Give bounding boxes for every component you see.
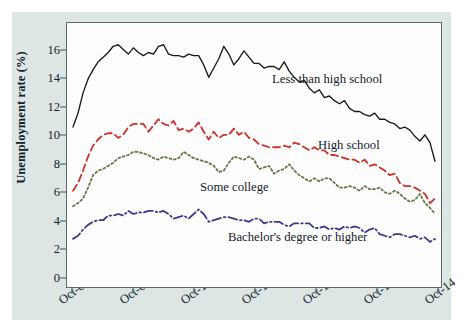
y-tick-label-8: 8	[26, 157, 60, 172]
annotation-some-college: Some college	[200, 180, 269, 195]
plot-area	[66, 22, 442, 288]
y-tick-label-6: 6	[26, 185, 60, 200]
y-tick-label-16: 16	[26, 43, 60, 58]
figure-container: of the current labor market employment r…	[0, 0, 463, 332]
annotation-bachelors-degree: Bachelor's degree or higher	[228, 230, 367, 245]
y-tick-label-4: 4	[26, 214, 60, 229]
y-tick-label-10: 10	[26, 128, 60, 143]
annotation-less-than-high-school: Less than high school	[272, 72, 382, 87]
y-tick-label-14: 14	[26, 71, 60, 86]
y-tick-label-12: 12	[26, 100, 60, 115]
series-line-0	[73, 45, 435, 161]
annotation-high-school: High school	[318, 138, 380, 153]
y-tick-label-0: 0	[26, 271, 60, 286]
series-canvas	[67, 23, 441, 287]
y-tick-label-2: 2	[26, 242, 60, 257]
y-axis-title: Unemployment rate (%)	[14, 0, 29, 243]
